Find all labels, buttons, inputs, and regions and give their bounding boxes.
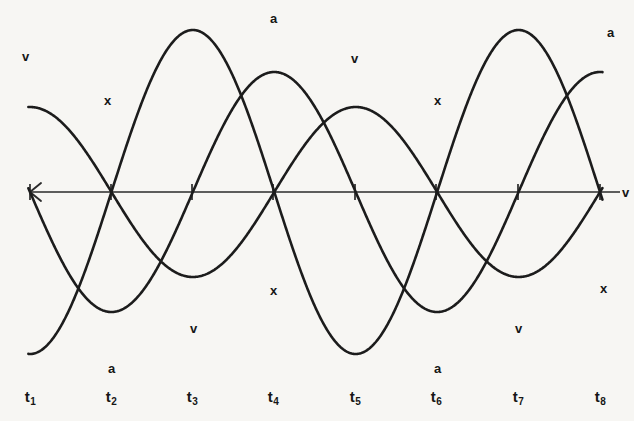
- curve-label-x-1: x: [104, 94, 111, 107]
- shm-plot-canvas: [0, 0, 634, 421]
- time-label-t3: t3: [187, 389, 198, 404]
- curve-label-x-4: x: [434, 94, 441, 107]
- time-axis-group: [30, 183, 620, 201]
- curve-label-a-5: a: [607, 26, 614, 39]
- time-label-base: t: [431, 388, 436, 405]
- time-label-subscript: 7: [518, 396, 524, 407]
- time-label-subscript: 6: [436, 396, 442, 407]
- shm-graph-figure: vxavxaavxavxv t1t2t3t4t5t6t7t8: [0, 0, 634, 421]
- time-label-t6: t6: [431, 389, 442, 404]
- time-label-subscript: 4: [273, 396, 279, 407]
- curve-label-a-2: a: [270, 12, 277, 25]
- time-label-base: t: [187, 388, 192, 405]
- curve-label-v-0: v: [22, 50, 29, 63]
- time-label-base: t: [595, 388, 600, 405]
- time-label-base: t: [106, 388, 111, 405]
- time-label-base: t: [350, 388, 355, 405]
- curve-label-v-3: v: [351, 52, 358, 65]
- time-label-base: t: [268, 388, 273, 405]
- time-label-t8: t8: [595, 389, 606, 404]
- curve-label-x-11: x: [600, 282, 607, 295]
- time-label-subscript: 1: [30, 396, 36, 407]
- curve-label-a-9: a: [434, 362, 441, 375]
- curve-label-a-6: a: [108, 362, 115, 375]
- time-label-t1: t1: [25, 389, 36, 404]
- curve-label-v-10: v: [515, 322, 522, 335]
- time-label-t5: t5: [350, 389, 361, 404]
- time-label-t4: t4: [268, 389, 279, 404]
- time-label-subscript: 5: [355, 396, 361, 407]
- time-label-base: t: [25, 388, 30, 405]
- time-label-subscript: 2: [111, 396, 117, 407]
- curve-label-v-7: v: [190, 322, 197, 335]
- time-label-subscript: 8: [600, 396, 606, 407]
- time-label-t7: t7: [513, 389, 524, 404]
- curve-label-x-8: x: [270, 284, 277, 297]
- time-label-base: t: [513, 388, 518, 405]
- time-label-t2: t2: [106, 389, 117, 404]
- time-label-subscript: 3: [192, 396, 198, 407]
- curve-label-v-12: v: [622, 186, 629, 199]
